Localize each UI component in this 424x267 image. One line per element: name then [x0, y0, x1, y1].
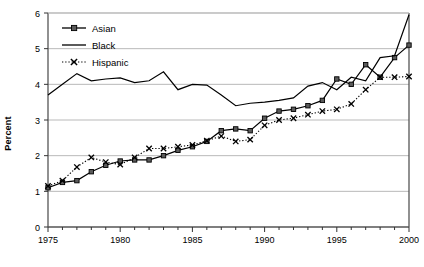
y-tick-label: 0	[35, 223, 40, 233]
x-axis-ticks	[48, 227, 409, 232]
y-axis-tick-labels: 0123456	[35, 9, 40, 233]
x-tick-label: 2000	[399, 235, 419, 245]
y-axis-label-text: Percent	[3, 116, 13, 150]
series-line	[48, 76, 409, 185]
x-tick-label: 1990	[255, 235, 275, 245]
series-hispanic	[45, 74, 411, 189]
legend-label: Black	[92, 40, 115, 51]
data-point-marker	[75, 178, 79, 182]
legend-label: Hispanic	[92, 57, 129, 68]
y-tick-label: 6	[35, 9, 40, 19]
data-point-marker	[335, 77, 339, 81]
data-point-marker	[320, 98, 324, 102]
y-tick-label: 4	[35, 80, 40, 90]
data-point-marker	[407, 43, 411, 47]
y-tick-label: 3	[35, 116, 40, 126]
y-tick-label: 1	[35, 187, 40, 197]
line-chart-plot: 197519801985199019952000 0123456 AsianBl…	[0, 0, 424, 267]
data-point-marker	[277, 109, 281, 113]
legend-item-hispanic[interactable]: Hispanic	[62, 57, 129, 68]
chart-container: Percent 197519801985199019952000 0123456…	[0, 0, 424, 267]
chart-legend: AsianBlackHispanic	[62, 23, 129, 68]
x-tick-label: 1995	[327, 235, 347, 245]
data-point-marker	[262, 116, 266, 120]
data-point-marker	[219, 129, 223, 133]
legend-item-asian[interactable]: Asian	[62, 23, 116, 34]
y-tick-label: 5	[35, 44, 40, 54]
y-tick-label: 2	[35, 151, 40, 161]
data-point-marker	[248, 129, 252, 133]
data-point-marker	[363, 63, 367, 67]
data-point-marker	[291, 107, 295, 111]
legend-square-marker	[72, 25, 77, 30]
x-tick-label: 1980	[110, 235, 130, 245]
y-axis-label: Percent	[0, 0, 16, 267]
data-point-marker	[306, 104, 310, 108]
data-point-marker	[161, 153, 165, 157]
x-axis-tick-labels: 197519801985199019952000	[38, 235, 419, 245]
legend-label: Asian	[92, 23, 116, 34]
data-point-marker	[147, 158, 151, 162]
x-tick-label: 1975	[38, 235, 58, 245]
data-point-marker	[349, 82, 353, 86]
data-point-marker	[89, 170, 93, 174]
data-point-marker	[234, 127, 238, 131]
x-tick-label: 1985	[182, 235, 202, 245]
